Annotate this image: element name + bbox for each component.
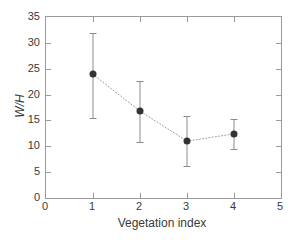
x-tick-label-4: 4 [230, 200, 236, 212]
y-tick-label-10: 10 [28, 139, 40, 151]
y-tick-label-25: 25 [28, 62, 40, 74]
y-tick-label-20: 20 [28, 88, 40, 100]
y-tick-label-35: 35 [28, 10, 40, 22]
series-connector-line [46, 17, 281, 198]
x-tick-label-2: 2 [136, 200, 142, 212]
y-tick-label-0: 0 [34, 191, 40, 203]
x-tick-label-3: 3 [183, 200, 189, 212]
y-tick-label-30: 30 [28, 36, 40, 48]
x-axis-label: Vegetation index [118, 216, 207, 230]
x-tick-label-0: 0 [42, 200, 48, 212]
x-tick-label-1: 1 [89, 200, 95, 212]
y-axis-label: W/H [13, 94, 27, 117]
x-tick-label-5: 5 [277, 200, 283, 212]
y-tick-label-5: 5 [34, 165, 40, 177]
plot-area [45, 16, 282, 199]
y-tick-label-15: 15 [28, 113, 40, 125]
chart-figure: 012345 05101520253035 Vegetation index W… [0, 0, 297, 240]
